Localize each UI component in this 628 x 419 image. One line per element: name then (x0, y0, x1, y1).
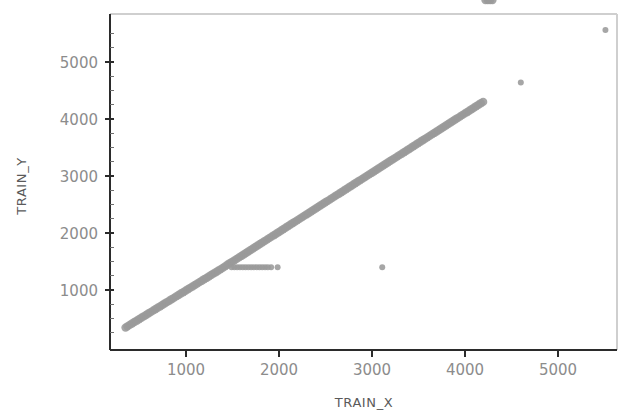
y-tick-label-1000: 1000 (60, 282, 98, 300)
x-tick-label-1000: 1000 (167, 361, 205, 379)
x-tick-label-4000: 4000 (446, 361, 484, 379)
series-horizontal_spur (229, 264, 281, 270)
x-tick-label-3000: 3000 (353, 361, 391, 379)
plot-canvas: 5000 4000 3000 2000 1000 1000 2000 3000 … (0, 0, 628, 419)
data-point (275, 264, 281, 270)
y-tick-label-2000: 2000 (60, 225, 98, 243)
x-tick-label-2000: 2000 (260, 361, 298, 379)
data-point (379, 264, 385, 270)
y-tick-label-5000: 5000 (60, 54, 98, 72)
y-tick-label-4000: 4000 (60, 111, 98, 129)
data-point (518, 80, 524, 86)
y-tick-label-3000: 3000 (60, 168, 98, 186)
y-axis-title: TRAIN_Y (14, 157, 29, 216)
scatter-plot-figure: 5000 4000 3000 2000 1000 1000 2000 3000 … (0, 0, 628, 419)
data-point (479, 98, 487, 106)
data-point (602, 27, 608, 33)
x-tick-label-5000: 5000 (539, 361, 577, 379)
x-axis-title: TRAIN_X (334, 395, 394, 410)
data-point (268, 264, 274, 270)
